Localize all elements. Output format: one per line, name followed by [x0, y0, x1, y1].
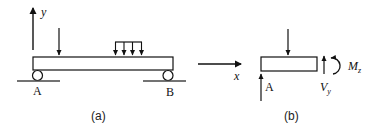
roller-support-b-icon	[143, 71, 186, 82]
moment-label: Mz	[347, 59, 362, 75]
moment-arrow-icon	[331, 58, 340, 74]
beam-segment	[261, 57, 317, 71]
beam-diagram: y A B x (a)	[0, 0, 379, 133]
shear-force-label: Vy	[320, 80, 331, 96]
distributed-load-icon	[115, 42, 142, 55]
panel-a: y A B x (a)	[17, 5, 241, 123]
reaction-a-label: A	[265, 80, 274, 94]
panel-b: A Vy Mz (b)	[261, 29, 362, 123]
y-axis-label: y	[40, 5, 47, 19]
roller-support-a-icon	[17, 71, 60, 82]
x-axis-label: x	[233, 69, 240, 83]
support-b-label: B	[166, 85, 174, 99]
support-a-label: A	[33, 84, 42, 98]
caption-a: (a)	[91, 109, 106, 123]
caption-b: (b)	[284, 109, 299, 123]
beam	[33, 57, 173, 70]
